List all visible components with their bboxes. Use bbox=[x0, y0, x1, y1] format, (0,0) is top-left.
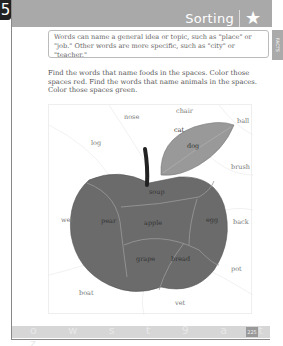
word-dog[interactable]: dog bbox=[187, 142, 199, 150]
word-pot[interactable]: pot bbox=[231, 265, 242, 273]
word-apple[interactable]: apple bbox=[144, 219, 162, 227]
page-header: Sorting ★ bbox=[12, 0, 272, 27]
word-bread[interactable]: bread bbox=[171, 255, 190, 263]
word-ball[interactable]: ball bbox=[237, 117, 249, 125]
section-number-tab: 5 bbox=[0, 0, 11, 20]
instructions-text: Find the words that name foods in the sp… bbox=[48, 69, 268, 95]
word-log[interactable]: log bbox=[91, 139, 101, 147]
word-egg[interactable]: egg bbox=[206, 216, 218, 224]
star-icon: ★ bbox=[245, 8, 261, 28]
info-box: Words can name a general idea or topic, … bbox=[48, 30, 269, 58]
word-grape[interactable]: grape bbox=[136, 255, 155, 263]
word-brush[interactable]: brush bbox=[231, 163, 250, 171]
bottom-rule bbox=[12, 339, 270, 340]
word-boat[interactable]: boat bbox=[79, 289, 94, 297]
puzzle-drawing bbox=[49, 105, 253, 315]
word-nose[interactable]: nose bbox=[124, 113, 139, 121]
word-soup[interactable]: soup bbox=[149, 188, 165, 196]
left-margin-rule bbox=[11, 0, 12, 340]
word-chair[interactable]: chair bbox=[176, 107, 193, 115]
page-number: 225 bbox=[246, 327, 258, 337]
word-cat[interactable]: cat bbox=[174, 126, 184, 134]
side-tab-facts: FACTS bbox=[272, 30, 283, 60]
word-vet[interactable]: vet bbox=[175, 299, 185, 307]
apple-puzzle: nose chair ball log brush wet back pot b… bbox=[48, 104, 252, 314]
header-title: Sorting bbox=[185, 11, 234, 26]
word-pear[interactable]: pear bbox=[101, 217, 116, 225]
word-wet[interactable]: wet bbox=[61, 216, 73, 224]
header-divider bbox=[239, 10, 240, 27]
word-back[interactable]: back bbox=[233, 218, 249, 226]
